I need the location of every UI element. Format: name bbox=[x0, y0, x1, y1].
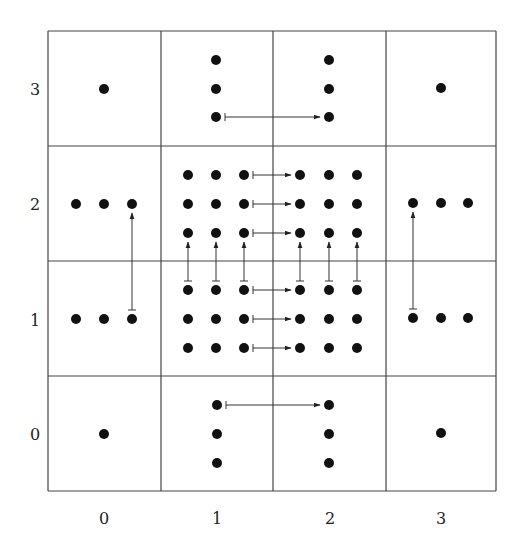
grid-point bbox=[324, 314, 334, 324]
grid-point bbox=[211, 84, 221, 94]
grid-point bbox=[324, 458, 334, 468]
grid-point bbox=[99, 314, 109, 324]
grid-point bbox=[239, 343, 249, 353]
grid-point bbox=[99, 199, 109, 209]
grid-point bbox=[352, 199, 362, 209]
grid-point bbox=[436, 313, 446, 323]
grid-point bbox=[239, 199, 249, 209]
grid-point bbox=[324, 400, 334, 410]
grid-point bbox=[239, 314, 249, 324]
grid-point bbox=[324, 170, 334, 180]
grid-point bbox=[239, 170, 249, 180]
grid-point bbox=[324, 343, 334, 353]
grid-point bbox=[352, 170, 362, 180]
grid-point bbox=[295, 314, 305, 324]
grid-point bbox=[212, 429, 222, 439]
grid-point bbox=[212, 400, 222, 410]
grid-point bbox=[324, 285, 334, 295]
grid-point bbox=[295, 343, 305, 353]
x-axis-label: 2 bbox=[325, 509, 335, 528]
grid-point bbox=[212, 458, 222, 468]
grid-point bbox=[211, 285, 221, 295]
grid-point bbox=[211, 170, 221, 180]
grid-point bbox=[324, 112, 334, 122]
grid-point bbox=[183, 343, 193, 353]
y-axis-label: 3 bbox=[30, 80, 40, 99]
grid-point bbox=[239, 228, 249, 238]
grid-point bbox=[352, 343, 362, 353]
grid-point bbox=[239, 285, 249, 295]
grid-point bbox=[71, 199, 81, 209]
x-axis-label: 3 bbox=[436, 509, 446, 528]
grid-point bbox=[324, 55, 334, 65]
grid-point bbox=[211, 112, 221, 122]
y-axis-label: 0 bbox=[30, 425, 40, 444]
grid-point bbox=[408, 313, 418, 323]
grid-point bbox=[211, 55, 221, 65]
grid-point bbox=[295, 199, 305, 209]
grid-point bbox=[324, 429, 334, 439]
grid-point bbox=[295, 228, 305, 238]
grid-point bbox=[352, 285, 362, 295]
grid-point bbox=[463, 313, 473, 323]
grid-point bbox=[324, 199, 334, 209]
x-axis-label: 0 bbox=[99, 509, 109, 528]
grid-point bbox=[463, 198, 473, 208]
grid-point bbox=[295, 170, 305, 180]
grid-point bbox=[99, 429, 109, 439]
grid-point bbox=[436, 198, 446, 208]
grid-point bbox=[324, 84, 334, 94]
grid-lines bbox=[48, 31, 496, 491]
grid-point bbox=[71, 314, 81, 324]
y-axis-label: 2 bbox=[30, 195, 40, 214]
grid-point bbox=[183, 314, 193, 324]
grid-point bbox=[99, 84, 109, 94]
grid-point bbox=[183, 228, 193, 238]
grid-point bbox=[127, 314, 137, 324]
grid-point bbox=[211, 314, 221, 324]
grid-point bbox=[127, 199, 137, 209]
grid-point bbox=[211, 199, 221, 209]
grid-point bbox=[408, 198, 418, 208]
grid-point bbox=[436, 83, 446, 93]
grid-point bbox=[352, 228, 362, 238]
grid-point bbox=[436, 428, 446, 438]
grid-point bbox=[352, 314, 362, 324]
grid-point bbox=[211, 228, 221, 238]
grid-point bbox=[183, 199, 193, 209]
grid-point bbox=[183, 285, 193, 295]
grid-point bbox=[295, 285, 305, 295]
axis-labels: 01233210 bbox=[30, 80, 446, 528]
grid-diagram: 01233210 bbox=[0, 0, 520, 546]
x-axis-label: 1 bbox=[212, 509, 222, 528]
grid-point bbox=[183, 170, 193, 180]
grid-point bbox=[211, 343, 221, 353]
grid-point bbox=[324, 228, 334, 238]
y-axis-label: 1 bbox=[30, 311, 40, 330]
